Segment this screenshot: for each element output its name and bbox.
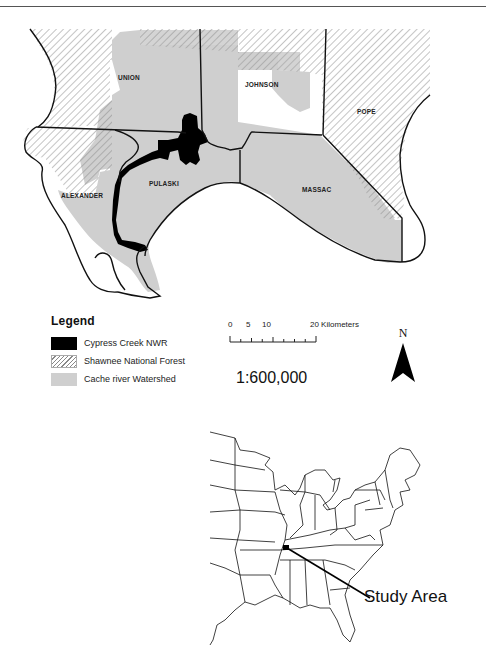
scale-label: 20 Kilometers <box>310 320 359 329</box>
gray-swatch-icon <box>51 373 77 386</box>
legend-item-nwr: Cypress Creek NWR <box>51 334 211 352</box>
legend-item-forest: Shawnee National Forest <box>51 352 211 370</box>
scale-tick-10: 10 <box>262 320 271 329</box>
legend-label: Shawnee National Forest <box>84 356 185 366</box>
legend-label: Cypress Creek NWR <box>84 338 168 348</box>
legend-title: Legend <box>51 314 211 328</box>
county-label-pulaski: PULASKI <box>149 180 179 187</box>
scale-ruler <box>230 336 316 342</box>
county-label-johnson: JOHNSON <box>245 81 279 88</box>
county-label-union: UNION <box>118 74 140 81</box>
hatch-swatch-icon <box>51 355 77 368</box>
scale-tick-5: 5 <box>246 320 251 329</box>
nwr-swatch-icon <box>51 337 77 350</box>
legend-item-watershed: Cache river Watershed <box>51 370 211 388</box>
scale-bar: 0 5 10 20 Kilometers <box>226 318 366 348</box>
scale-ratio: 1:600,000 <box>236 369 307 387</box>
legend-label: Cache river Watershed <box>84 374 176 384</box>
north-arrow-icon: N <box>388 325 418 385</box>
county-label-pope: POPE <box>357 108 376 115</box>
legend: Legend Cypress Creek NWR Shawnee Nationa… <box>51 314 211 388</box>
county-map: UNION JOHNSON POPE ALEXANDER PULASKI MAS… <box>0 0 486 300</box>
study-area-label: Study Area <box>364 587 447 607</box>
scale-tick-0: 0 <box>228 320 233 329</box>
north-label: N <box>399 326 408 340</box>
inset-us-map <box>205 430 435 650</box>
county-label-alexander: ALEXANDER <box>61 192 103 199</box>
county-label-massac: MASSAC <box>302 186 331 193</box>
state-boundaries <box>210 432 420 645</box>
